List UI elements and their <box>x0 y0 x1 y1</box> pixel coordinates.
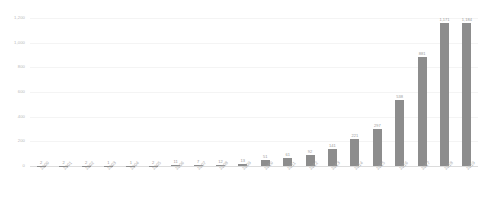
x-axis-slot: 2015 <box>366 166 388 200</box>
bar-slot: 2 <box>30 18 52 166</box>
bar-slot: 1,184 <box>456 18 478 166</box>
y-axis-tick-label: 200 <box>18 139 25 143</box>
bar-value-label: 51 <box>263 155 268 159</box>
bar-slot: 1 <box>97 18 119 166</box>
y-axis-tick-label: 400 <box>18 115 25 119</box>
x-axis-slot: 2019 <box>456 166 478 200</box>
bar[interactable] <box>395 100 404 166</box>
bar-value-label: 1,184 <box>462 18 472 22</box>
bar-value-label: 1,171 <box>439 18 449 22</box>
x-axis-slot: 2011 <box>276 166 298 200</box>
x-axis-slot: 2001 <box>52 166 74 200</box>
x-axis-slot: 2018 <box>433 166 455 200</box>
bar-slot: 1 <box>120 18 142 166</box>
bar-slot: 12 <box>209 18 231 166</box>
x-axis-slot: 2013 <box>321 166 343 200</box>
x-axis-slot: 2012 <box>299 166 321 200</box>
x-axis-slot: 2009 <box>232 166 254 200</box>
x-axis-slot: 2007 <box>187 166 209 200</box>
bar[interactable] <box>440 23 449 166</box>
bar-slot: 61 <box>276 18 298 166</box>
bar-slot: 2 <box>75 18 97 166</box>
bar-series: 22211211712135161921412212975388811,1711… <box>30 18 478 166</box>
x-axis-slot: 2016 <box>389 166 411 200</box>
y-axis-tick-label: 1,000 <box>14 41 25 45</box>
bar-value-label: 141 <box>329 144 336 148</box>
bar-slot: 881 <box>411 18 433 166</box>
x-axis-slot: 2006 <box>164 166 186 200</box>
bar[interactable] <box>418 57 427 166</box>
bar-slot: 2 <box>142 18 164 166</box>
bar-slot: 51 <box>254 18 276 166</box>
bar-slot: 1,171 <box>433 18 455 166</box>
bar-slot: 141 <box>321 18 343 166</box>
x-axis-slot: 2004 <box>120 166 142 200</box>
x-axis-slot: 2000 <box>30 166 52 200</box>
x-axis-slot: 2008 <box>209 166 231 200</box>
plot-area: 22211211712135161921412212975388811,1711… <box>30 18 478 166</box>
bar-slot: 297 <box>366 18 388 166</box>
y-axis: 02004006008001,0001,200 <box>0 18 28 166</box>
y-axis-tick-label: 800 <box>18 65 25 69</box>
bar-slot: 2 <box>52 18 74 166</box>
bar-value-label: 221 <box>351 134 358 138</box>
bar-slot: 92 <box>299 18 321 166</box>
bar-value-label: 92 <box>308 150 313 154</box>
x-axis: 2000200120022003200420052006200720082009… <box>30 166 478 200</box>
x-axis-slot: 2014 <box>344 166 366 200</box>
bar-slot: 221 <box>344 18 366 166</box>
bar-value-label: 538 <box>396 95 403 99</box>
x-axis-slot: 2002 <box>75 166 97 200</box>
bar-value-label: 881 <box>419 52 426 56</box>
x-axis-slot: 2003 <box>97 166 119 200</box>
y-axis-tick-label: 600 <box>18 90 25 94</box>
bar-slot: 7 <box>187 18 209 166</box>
x-axis-slot: 2005 <box>142 166 164 200</box>
bar-slot: 11 <box>164 18 186 166</box>
y-axis-tick-label: 0 <box>23 164 25 168</box>
bar-slot: 538 <box>389 18 411 166</box>
bar-value-label: 61 <box>285 153 290 157</box>
y-axis-tick-label: 1,200 <box>14 16 25 20</box>
bar-slot: 13 <box>232 18 254 166</box>
bar-value-label: 297 <box>374 124 381 128</box>
bar-chart: 02004006008001,0001,200 2221121171213516… <box>0 0 482 200</box>
x-axis-slot: 2017 <box>411 166 433 200</box>
bar[interactable] <box>462 23 471 166</box>
x-axis-slot: 2010 <box>254 166 276 200</box>
